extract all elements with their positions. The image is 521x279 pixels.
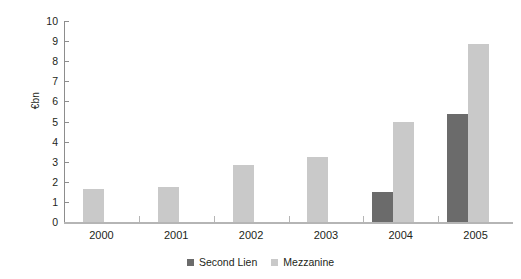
legend-label: Second Lien xyxy=(199,257,257,267)
legend-swatch-icon xyxy=(187,259,194,266)
y-tick-label: 5 xyxy=(36,117,58,127)
y-tick-label: 7 xyxy=(36,76,58,86)
plot-area xyxy=(64,21,513,222)
y-tick-label: 1 xyxy=(36,197,58,207)
y-tick-label-text: 1 xyxy=(36,197,58,207)
y-tick-label: 10 xyxy=(36,16,58,26)
y-tick-label-text: 6 xyxy=(36,96,58,106)
y-tick-label: 8 xyxy=(36,56,58,66)
x-tick-mark xyxy=(139,216,140,222)
y-tick-label-text: 8 xyxy=(36,56,58,66)
legend-swatch-icon xyxy=(271,259,278,266)
y-tick-label-text: 7 xyxy=(36,76,58,86)
y-tick-label-text: 2 xyxy=(36,177,58,187)
bar-group xyxy=(289,21,364,222)
y-tick-label: 0 xyxy=(36,217,58,227)
legend-item-second-lien[interactable]: Second Lien xyxy=(187,257,257,267)
chart-legend: Second LienMezzanine xyxy=(0,257,521,267)
x-tick-mark xyxy=(363,216,364,222)
bar-group xyxy=(363,21,438,222)
x-axis-line xyxy=(64,222,513,224)
bar-mezzanine-2002 xyxy=(233,165,254,222)
bar-mezzanine-2004 xyxy=(393,122,414,223)
bar-group xyxy=(64,21,139,222)
x-axis-label-2002: 2002 xyxy=(214,229,288,241)
x-axis-label-2001: 2001 xyxy=(139,229,213,241)
y-tick-label-text: 4 xyxy=(36,137,58,147)
y-tick-label-text: 0 xyxy=(36,217,58,227)
x-axis-label-2003: 2003 xyxy=(289,229,363,241)
y-tick-label: 4 xyxy=(36,137,58,147)
y-tick-label: 9 xyxy=(36,36,58,46)
y-tick-label-text: 3 xyxy=(36,157,58,167)
legend-item-mezzanine[interactable]: Mezzanine xyxy=(271,257,334,267)
bar-second-lien-2004 xyxy=(372,192,393,222)
bar-mezzanine-2000 xyxy=(83,189,104,222)
y-tick-label: 6 xyxy=(36,96,58,106)
y-tick-label-text: 5 xyxy=(36,117,58,127)
bar-mezzanine-2001 xyxy=(158,187,179,222)
bar-mezzanine-2003 xyxy=(307,157,328,222)
x-axis-label-2000: 2000 xyxy=(64,229,138,241)
y-tick-label-text: 9 xyxy=(36,36,58,46)
x-tick-mark xyxy=(438,216,439,222)
bar-group xyxy=(139,21,214,222)
bar-group xyxy=(214,21,289,222)
x-tick-mark xyxy=(289,216,290,222)
bar-chart: €bn 012345678910 20002001200220032004200… xyxy=(0,0,521,279)
legend-label: Mezzanine xyxy=(283,257,334,267)
bar-group xyxy=(438,21,513,222)
x-tick-mark xyxy=(214,216,215,222)
y-tick-label: 3 xyxy=(36,157,58,167)
x-axis-label-2004: 2004 xyxy=(364,229,438,241)
y-tick-label: 2 xyxy=(36,177,58,187)
x-axis-label-2005: 2005 xyxy=(439,229,513,241)
bar-second-lien-2005 xyxy=(447,114,468,222)
bar-mezzanine-2005 xyxy=(468,44,489,222)
y-tick-label-text: 10 xyxy=(36,16,58,26)
